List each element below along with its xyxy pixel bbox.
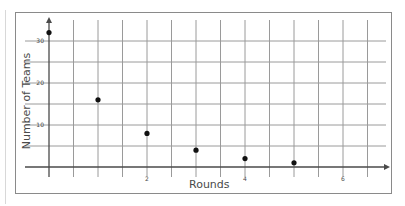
y-tick-label: 20	[36, 79, 44, 86]
x-axis-title: Rounds	[189, 178, 230, 191]
data-point	[242, 156, 247, 161]
y-axis-arrow-icon	[46, 17, 52, 23]
y-axis-title: Number of Teams	[20, 53, 33, 150]
x-tick-label: 4	[243, 175, 247, 182]
y-tick-label: 30	[36, 37, 44, 44]
data-point	[144, 131, 149, 136]
x-axis-arrow-icon	[384, 164, 390, 170]
x-tick-label: 2	[145, 175, 149, 182]
x-tick-label: 6	[341, 175, 345, 182]
data-point	[291, 160, 296, 165]
y-tick-label: 10	[36, 121, 44, 128]
data-point	[193, 148, 198, 153]
data-point	[95, 97, 100, 102]
data-point	[46, 30, 51, 35]
scatter-plot: 102030246	[0, 0, 405, 206]
